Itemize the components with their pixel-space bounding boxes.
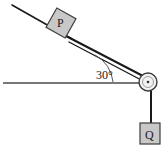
- block-p-label: P: [57, 16, 64, 30]
- pulley-axle-dot-icon: [147, 81, 150, 84]
- angle-label: 30°: [96, 68, 113, 82]
- block-q-label: Q: [145, 128, 154, 142]
- physics-diagram: 30° P Q: [0, 0, 164, 146]
- diagram-canvas: 30° P Q: [0, 0, 164, 146]
